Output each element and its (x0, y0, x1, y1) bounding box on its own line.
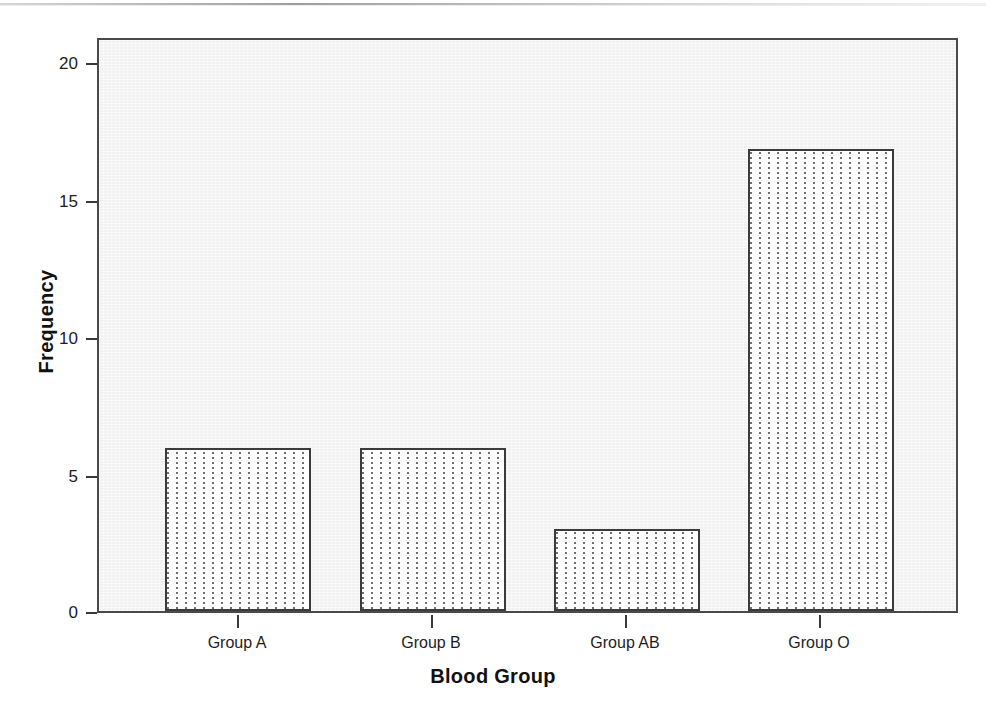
y-tick-label-15: 15 (38, 193, 78, 210)
x-tick-label-group-b: Group B (341, 635, 521, 651)
y-tick-label-5: 5 (38, 468, 78, 485)
y-tick-mark-0 (86, 612, 97, 614)
x-tick-mark-group-ab (625, 615, 627, 628)
y-tick-label-20: 20 (38, 55, 78, 72)
bar-group-o (748, 149, 894, 611)
x-tick-mark-group-b (431, 615, 433, 628)
y-tick-mark-5 (86, 476, 97, 478)
y-tick-mark-15 (86, 201, 97, 203)
y-tick-mark-10 (86, 338, 97, 340)
bar-chart-figure: 20 15 10 5 0 Frequency Group A Group B G… (0, 0, 986, 714)
x-axis-title: Blood Group (0, 665, 986, 688)
bar-group-ab (554, 529, 700, 611)
bar-group-b (360, 448, 506, 611)
y-axis-title: Frequency (35, 252, 58, 392)
bar-hatch-pattern (750, 151, 892, 609)
bar-group-a (165, 448, 311, 611)
x-tick-mark-group-o (819, 615, 821, 628)
x-tick-label-group-a: Group A (147, 635, 327, 651)
plot-area (97, 38, 958, 613)
bar-hatch-pattern (556, 531, 698, 609)
y-tick-label-0: 0 (38, 604, 78, 621)
x-tick-label-group-ab: Group AB (535, 635, 715, 651)
bar-hatch-pattern (167, 450, 309, 609)
x-tick-mark-group-a (237, 615, 239, 628)
y-tick-mark-20 (86, 63, 97, 65)
bar-hatch-pattern (362, 450, 504, 609)
x-tick-label-group-o: Group O (729, 635, 909, 651)
